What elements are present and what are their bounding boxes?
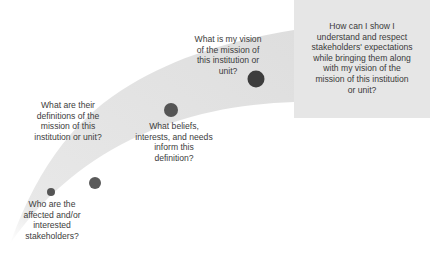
goal-line: How can I show I [300,21,424,32]
step-2-dot [89,177,101,189]
goal-line: while bringing them along [300,53,424,64]
step-2-label: What are their definitions of the missio… [20,100,116,142]
label-line: of the mission of [186,45,270,56]
goal-line: or unit? [300,85,424,96]
label-line: mission of this [20,121,116,132]
step-3-label: What beliefs, interests, and needs infor… [126,121,222,163]
label-line: stakeholders? [14,231,90,242]
step-1-label: Who are the affected and/or interested s… [14,199,90,241]
label-line: definitions of the [20,111,116,122]
goal-box: How can I show I understand and respect … [294,0,430,118]
goal-line: with my vision of the [300,63,424,74]
goal-line: stakeholders' expectations [300,42,424,53]
label-line: Who are the [14,199,90,210]
label-line: interests, and needs [126,132,222,143]
step-1-dot [47,188,55,196]
label-line: affected and/or [14,210,90,221]
step-3-dot [164,103,178,117]
label-line: definition? [126,153,222,164]
goal-line: understand and respect [300,32,424,43]
label-line: What beliefs, [126,121,222,132]
goal-line: mission of this institution [300,74,424,85]
step-4-label: What is my vision of the mission of this… [186,34,270,76]
label-line: interested [14,220,90,231]
label-line: institution or unit? [20,132,116,143]
goal-box-text: How can I show I understand and respect … [300,21,424,95]
label-line: What is my vision [186,34,270,45]
label-line: unit? [186,66,270,77]
label-line: What are their [20,100,116,111]
label-line: inform this [126,142,222,153]
label-line: this institution or [186,55,270,66]
